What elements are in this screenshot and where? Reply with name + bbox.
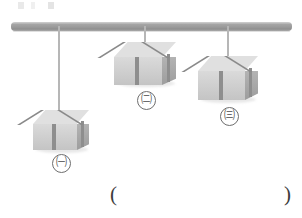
horizontal-support-bar <box>11 22 292 31</box>
answer-blank-open-paren: ( <box>110 182 117 207</box>
package-a-ribbon-vertical <box>52 124 56 150</box>
package-b <box>114 42 176 87</box>
package-b-ribbon-vertical <box>135 57 139 85</box>
answer-blank-close-paren: ) <box>284 182 291 207</box>
package-a-label: ㈠ <box>52 154 71 173</box>
package-c <box>198 56 258 102</box>
package-c-ribbon-vertical <box>219 71 223 100</box>
package-c-ribbon-side <box>249 68 252 97</box>
package-b-ribbon-side <box>167 54 170 82</box>
package-c-label: ㈢ <box>220 107 239 126</box>
cropped-text-artifact <box>18 2 64 9</box>
string-c <box>227 26 229 59</box>
figure-canvas: ㈠ ㈡ ㈢ ( ) <box>0 0 302 218</box>
package-a <box>33 110 89 152</box>
string-a <box>58 26 60 114</box>
package-b-label: ㈡ <box>137 91 156 110</box>
